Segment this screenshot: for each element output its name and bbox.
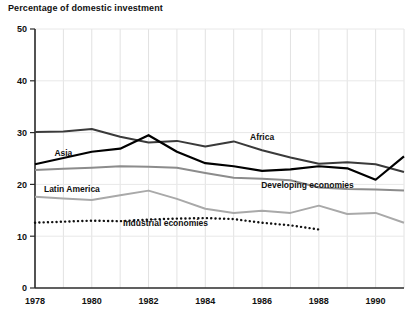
y-tick-label: 30	[17, 128, 27, 138]
axes	[35, 29, 404, 288]
x-tick-label: 1990	[366, 296, 386, 306]
x-tick-label: 1984	[195, 296, 215, 306]
x-tick-label: 1980	[82, 296, 102, 306]
x-tick-label: 1988	[309, 296, 329, 306]
y-tick-label: 40	[17, 76, 27, 86]
series-line-asia	[35, 135, 404, 180]
series-label-latin-america: Latin America	[44, 184, 100, 194]
y-tick-label: 20	[17, 180, 27, 190]
chart-container: Percentage of domestic investment 010203…	[0, 0, 411, 321]
y-tick-label: 50	[17, 24, 27, 34]
y-tick-label: 10	[17, 232, 27, 242]
x-tick-label: 1978	[25, 296, 45, 306]
y-tick-label: 0	[22, 283, 27, 293]
series-label-developing-economies: Developing economies	[261, 180, 354, 190]
series-label-asia: Asia	[54, 148, 72, 158]
y-axis-ticks: 01020304050	[17, 24, 35, 293]
line-chart-plot: 010203040501978198019821984198619881990A…	[0, 0, 411, 321]
x-tick-label: 1986	[252, 296, 272, 306]
series-label-industrial-economies: Industrial economies	[123, 218, 208, 228]
x-tick-label: 1982	[139, 296, 159, 306]
series-label-africa: Africa	[250, 132, 274, 142]
x-axis-ticks: 1978198019821984198619881990	[25, 296, 386, 306]
gridlines	[35, 29, 404, 288]
